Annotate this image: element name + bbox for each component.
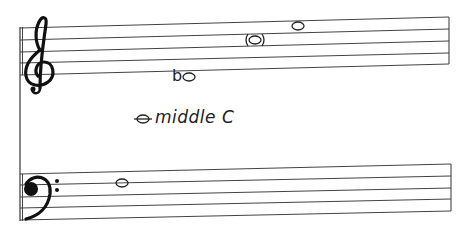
middle-c-note-icon bbox=[134, 115, 152, 123]
treble-staff bbox=[20, 17, 449, 75]
high-note-icon bbox=[292, 22, 304, 30]
treble-clef-icon bbox=[26, 18, 53, 93]
b-flat-note-icon bbox=[183, 73, 195, 81]
bass-clef-icon bbox=[24, 177, 59, 219]
bass-staff bbox=[20, 164, 451, 220]
flat-sign: b bbox=[172, 66, 182, 85]
middle-c-label: middle C bbox=[155, 107, 234, 127]
parenthesized-note-icon bbox=[246, 34, 264, 46]
